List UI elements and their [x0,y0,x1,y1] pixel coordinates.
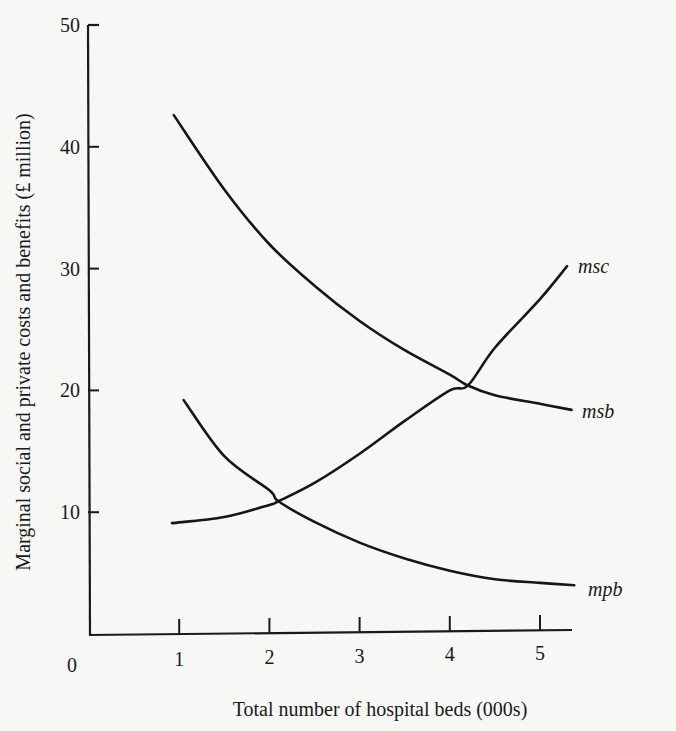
x-tick-label: 5 [535,642,545,664]
x-axis [89,630,572,635]
x-tick-label: 2 [264,646,274,668]
y-tick-label: 50 [60,14,80,36]
msc-label: msc [578,255,609,277]
x-tick-label: 3 [355,645,365,667]
curves [172,115,574,585]
x-tick-labels: 012345 [67,642,545,677]
msb-label: msb [582,400,614,422]
y-axis [88,25,90,635]
y-tick-labels: 1020304050 [60,14,80,523]
x-tick-label: 1 [174,648,184,670]
mpb-curve [184,400,575,585]
msc-curve [172,266,567,523]
x-axis-title: Total number of hospital beds (000s) [233,698,528,721]
y-tick-label: 40 [60,136,80,158]
x-tick-label: 0 [67,654,77,676]
y-tick-label: 20 [60,379,80,401]
mpb-label: mpb [588,578,622,601]
chart: 1020304050 012345 Marginal social and pr… [0,0,676,731]
axes [88,25,572,635]
x-tick-label: 4 [445,643,455,665]
y-tick-label: 10 [60,501,80,523]
msb-curve [174,115,572,410]
y-axis-title: Marginal social and private costs and be… [12,113,35,570]
y-tick-label: 30 [60,258,80,280]
